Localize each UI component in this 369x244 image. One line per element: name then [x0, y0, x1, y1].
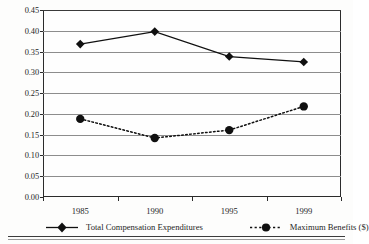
circle-marker-icon	[249, 222, 283, 233]
legend-label: Maximum Benefits ($)	[290, 222, 369, 232]
x-tick-mark	[192, 197, 193, 201]
legend-entry-maximum-benefits[interactable]: Maximum Benefits ($)	[249, 222, 369, 233]
y-tick-label: 0.10	[25, 151, 39, 160]
x-tick-label: 1995	[221, 206, 238, 216]
data-point-marker	[300, 102, 308, 110]
x-tick-mark	[43, 197, 44, 201]
y-tick-label: 0.00	[25, 193, 39, 202]
data-point-marker	[150, 27, 159, 36]
footer-divider-secondary	[8, 239, 345, 240]
y-tick-label: 0.05	[25, 172, 39, 181]
y-tick-label: 0.40	[25, 26, 39, 35]
data-point-marker	[299, 58, 308, 67]
y-tick-label: 0.45	[25, 6, 39, 15]
x-tick-mark	[267, 197, 268, 201]
y-tick-label: 0.30	[25, 68, 39, 77]
y-tick-label: 0.15	[25, 130, 39, 139]
data-point-marker	[225, 52, 234, 61]
data-point-marker	[76, 115, 84, 123]
series-line-0	[80, 32, 304, 62]
plot-area: 0.000.050.100.150.200.250.300.350.400.45…	[43, 10, 341, 197]
x-tick-label: 1990	[146, 206, 163, 216]
chart-legend: Total Compensation Expenditures Maximum …	[43, 219, 341, 235]
y-tick-label: 0.35	[25, 47, 39, 56]
data-point-marker	[225, 126, 233, 134]
diamond-marker-icon	[45, 222, 79, 233]
legend-entry-total-compensation-expenditures[interactable]: Total Compensation Expenditures	[45, 222, 203, 233]
series-line-1	[80, 106, 304, 138]
footer-divider	[8, 236, 345, 237]
data-point-marker	[151, 134, 159, 142]
x-tick-mark	[118, 197, 119, 201]
data-point-marker	[76, 40, 85, 49]
y-tick-label: 0.25	[25, 89, 39, 98]
legend-label: Total Compensation Expenditures	[86, 222, 203, 232]
x-tick-label: 1985	[72, 206, 89, 216]
y-tick-label: 0.20	[25, 109, 39, 118]
series-layer	[43, 10, 341, 197]
x-tick-mark	[341, 197, 342, 201]
x-tick-label: 1999	[295, 206, 312, 216]
